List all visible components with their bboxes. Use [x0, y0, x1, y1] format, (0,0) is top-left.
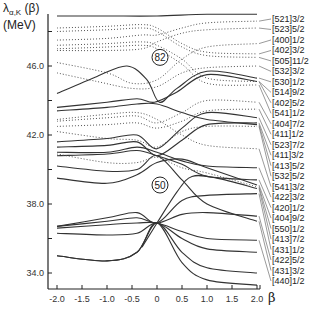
- state-leader-line: [259, 40, 271, 44]
- level-curve-solid-50d: [57, 223, 257, 252]
- x-tick-label: 0: [154, 294, 159, 304]
- state-leader-line: [259, 66, 271, 71]
- level-curve-solid-50a: [57, 194, 257, 227]
- state-label: [413]5/2: [272, 161, 305, 171]
- level-curve-dot-e2: [57, 100, 257, 123]
- magic-number-label: 82: [154, 52, 166, 63]
- state-label: [420]1/2: [272, 203, 305, 213]
- state-label: [411]3/2: [272, 150, 304, 160]
- y-tick-label: 34.0: [26, 268, 44, 278]
- state-leader-line: [259, 57, 271, 61]
- level-curve-dot-b3: [57, 28, 257, 51]
- level-curve-solid-50b: [57, 212, 257, 226]
- state-label: [431]1/2: [272, 245, 305, 255]
- state-label: [550]1/2: [272, 224, 305, 234]
- state-leader-line: [259, 19, 271, 21]
- state-label: [523]7/2: [272, 140, 305, 150]
- state-labels: [521]3/2[523]5/2[400]1/2[402]3/2[505]11/…: [259, 14, 309, 286]
- state-label: [404]7/2: [272, 119, 305, 129]
- magic-number-label: 50: [154, 180, 166, 191]
- x-tick-label: 0.5: [176, 294, 189, 304]
- level-curve-dot-d: [57, 66, 257, 89]
- level-curve-solid-g1: [57, 112, 257, 149]
- state-label: [532]5/2: [272, 171, 305, 181]
- state-label: [411]1/2: [272, 129, 304, 139]
- x-tick-label: -1.5: [74, 294, 90, 304]
- state-label: [400]1/2: [272, 35, 305, 45]
- x-tick-label: -2.0: [49, 294, 65, 304]
- nilsson-diagram: -2.0-1.5-1.0-0.500.51.01.52.034.038.042.…: [0, 0, 321, 321]
- y-tick-label: 38.0: [26, 199, 44, 209]
- state-label: [521]3/2: [272, 14, 305, 24]
- level-curve-solid-g2: [57, 123, 257, 156]
- x-axis-label: β: [268, 290, 276, 305]
- state-label: [422]5/2: [272, 255, 305, 265]
- state-label: [404]9/2: [272, 213, 305, 223]
- level-curve-dot-a3: [57, 21, 257, 40]
- state-label: [402]5/2: [272, 98, 305, 108]
- state-leader-line: [259, 82, 271, 93]
- level-curve-top-solid: [57, 14, 257, 16]
- x-tick-label: -1.0: [99, 294, 115, 304]
- x-tick-label: 1.0: [201, 294, 214, 304]
- level-curve-solid-50e: [57, 223, 257, 273]
- state-label: [514]9/2: [272, 87, 305, 97]
- state-label: [431]3/2: [272, 266, 305, 276]
- state-label: [541]3/2: [272, 182, 305, 192]
- state-leader-line: [259, 28, 271, 29]
- level-curve-solid-g3: [57, 147, 257, 168]
- axes: -2.0-1.5-1.0-0.500.51.01.52.034.038.042.…: [26, 14, 275, 305]
- level-curve-dot-f: [57, 126, 257, 147]
- level-curve-dot-e1: [57, 112, 257, 148]
- y-tick-label: 46.0: [26, 61, 44, 71]
- level-curve-solid-50c: [57, 222, 257, 240]
- state-label: [523]5/2: [272, 24, 305, 34]
- state-label: [541]1/2: [272, 108, 305, 118]
- state-label: [532]3/2: [272, 66, 305, 76]
- y-tick-label: 42.0: [26, 130, 44, 140]
- x-tick-label: 1.5: [226, 294, 239, 304]
- state-label: [530]1/2: [272, 77, 305, 87]
- x-tick-label: -0.5: [124, 294, 140, 304]
- state-label: [402]3/2: [272, 45, 305, 55]
- level-curve-solid-82a: [57, 66, 257, 102]
- state-label: [505]11/2: [272, 56, 309, 66]
- state-leader-line: [259, 78, 271, 82]
- state-label: [413]7/2: [272, 234, 305, 244]
- state-label: [440]1/2: [272, 276, 305, 286]
- state-leader-line: [259, 50, 271, 53]
- state-label: [422]3/2: [272, 192, 305, 202]
- level-curve-solid-g4: [57, 150, 257, 179]
- x-tick-label: 2.0: [251, 294, 264, 304]
- level-curve-solid-50f: [57, 223, 257, 285]
